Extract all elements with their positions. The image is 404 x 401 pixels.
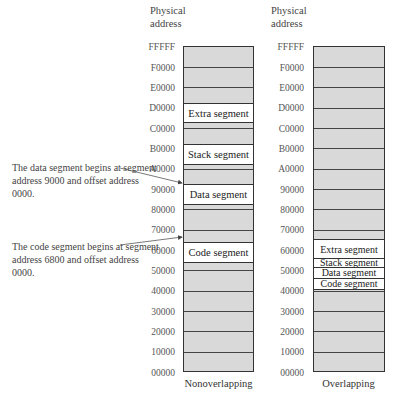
annotation-arrows <box>0 0 404 401</box>
data-segment-arrow <box>120 168 182 183</box>
code-segment-arrow <box>120 237 182 245</box>
